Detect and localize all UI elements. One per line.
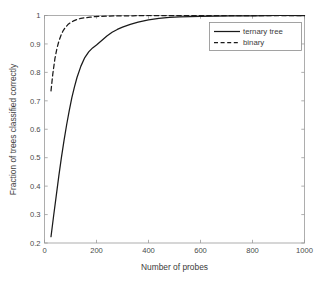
chart-legend[interactable]: ternary tree binary	[210, 23, 302, 51]
y-tick-label: 0.7	[30, 97, 41, 106]
x-axis-title: Number of probes	[141, 262, 208, 272]
y-axis-title: Fraction of trees classified correctly	[8, 63, 18, 195]
y-tick-label: 0.3	[30, 210, 41, 219]
legend-label-binary: binary	[243, 38, 264, 47]
y-tick-label: 0.9	[30, 40, 41, 49]
y-tick-label: 0.4	[30, 182, 41, 191]
y-tick-label: 0.8	[30, 68, 41, 77]
legend-label-ternary-tree: ternary tree	[243, 27, 283, 36]
line-chart: 020040060080010000.20.30.40.50.60.70.80.…	[0, 0, 326, 284]
figure-container: 020040060080010000.20.30.40.50.60.70.80.…	[0, 0, 326, 284]
x-tick-label: 1000	[296, 246, 313, 255]
y-tick-label: 0.5	[30, 153, 41, 162]
y-tick-label: 1	[36, 11, 40, 20]
x-tick-label: 200	[90, 246, 103, 255]
x-tick-label: 0	[42, 246, 46, 255]
x-tick-label: 400	[142, 246, 155, 255]
x-tick-label: 600	[194, 246, 207, 255]
x-tick-label: 800	[246, 246, 259, 255]
y-tick-label: 0.6	[30, 125, 41, 134]
y-tick-label: 0.2	[30, 239, 41, 248]
